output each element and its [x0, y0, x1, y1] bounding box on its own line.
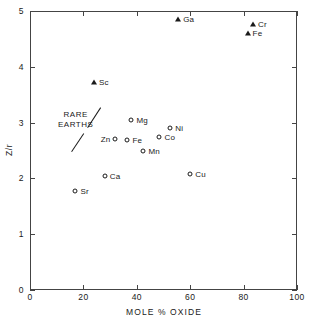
x-tick-bottom	[137, 285, 138, 290]
point-label-zn: Zn	[101, 135, 111, 144]
data-point-zn	[113, 137, 118, 142]
x-tick-bottom	[190, 285, 191, 290]
y-tick-right	[292, 67, 297, 68]
triangle-marker	[91, 80, 97, 85]
point-label-ga: Ga	[183, 15, 194, 24]
triangle-marker	[245, 30, 251, 35]
data-point-mg	[129, 117, 134, 122]
x-tick-bottom	[244, 285, 245, 290]
point-label-sr: Sr	[80, 186, 88, 195]
rare-earths-line1: RARE	[58, 110, 93, 120]
circle-marker	[73, 188, 78, 193]
point-label-sc: Sc	[99, 78, 109, 87]
data-point-fe	[125, 138, 130, 143]
y-tick-right	[292, 178, 297, 179]
x-tick-top	[244, 11, 245, 16]
data-point-ni	[168, 126, 173, 131]
point-label-fe: Fe	[132, 136, 142, 145]
x-tick-label: 100	[289, 292, 304, 302]
y-tick-right	[292, 234, 297, 235]
triangle-marker	[250, 22, 256, 27]
circle-marker	[157, 135, 162, 140]
circle-marker	[113, 137, 118, 142]
y-tick-left	[30, 67, 35, 68]
circle-marker	[168, 126, 173, 131]
x-tick-label: 40	[132, 292, 142, 302]
x-tick-label: 0	[27, 292, 32, 302]
x-axis-title: MOLE % OXIDE	[126, 307, 202, 317]
point-label-mn: Mn	[148, 146, 160, 155]
y-tick-left	[30, 123, 35, 124]
circle-marker	[129, 117, 134, 122]
circle-marker	[141, 148, 146, 153]
y-tick-label: 5	[19, 6, 24, 16]
point-label-fe: Fe	[253, 28, 263, 37]
point-label-cu: Cu	[195, 170, 206, 179]
y-tick-left	[30, 290, 35, 291]
data-point-ga	[175, 17, 181, 22]
x-tick-label: 80	[238, 292, 248, 302]
y-axis-title: Z/r	[4, 144, 14, 156]
y-tick-label: 0	[19, 285, 24, 295]
x-tick-label: 20	[78, 292, 88, 302]
scatter-chart-figure: Z/r MOLE % OXIDE 020406080100012345 GaCr…	[0, 0, 312, 327]
y-tick-right	[292, 123, 297, 124]
x-tick-top	[137, 11, 138, 16]
data-point-cu	[188, 172, 193, 177]
y-tick-label: 3	[19, 118, 24, 128]
data-point-mn	[141, 148, 146, 153]
data-point-sc	[91, 80, 97, 85]
point-label-co: Co	[164, 133, 175, 142]
point-label-mg: Mg	[136, 115, 148, 124]
circle-marker	[188, 172, 193, 177]
y-tick-label: 1	[19, 229, 24, 239]
y-tick-left	[30, 11, 35, 12]
circle-marker	[102, 173, 107, 178]
plot-area	[30, 11, 297, 290]
circle-marker	[125, 138, 130, 143]
point-label-ca: Ca	[110, 171, 121, 180]
y-tick-label: 2	[19, 173, 24, 183]
y-tick-right	[292, 11, 297, 12]
data-point-ca	[102, 173, 107, 178]
data-point-sr	[73, 188, 78, 193]
y-tick-label: 4	[19, 62, 24, 72]
x-tick-bottom	[297, 285, 298, 290]
x-tick-top	[83, 11, 84, 16]
data-point-cr	[250, 22, 256, 27]
y-tick-left	[30, 178, 35, 179]
point-label-ni: Ni	[175, 124, 183, 133]
x-tick-bottom	[83, 285, 84, 290]
triangle-marker	[175, 17, 181, 22]
y-tick-left	[30, 234, 35, 235]
x-tick-top	[297, 11, 298, 16]
x-tick-label: 60	[185, 292, 195, 302]
y-tick-right	[292, 290, 297, 291]
data-point-fe	[245, 30, 251, 35]
data-point-co	[157, 135, 162, 140]
